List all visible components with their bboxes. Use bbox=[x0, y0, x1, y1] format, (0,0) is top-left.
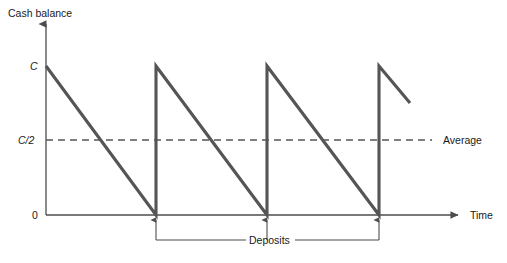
y-axis-title: Cash balance bbox=[8, 8, 72, 19]
chart-canvas bbox=[0, 0, 507, 263]
cash-balance-sawtooth-figure: Cash balance Time C C/2 0 Average Deposi… bbox=[0, 0, 507, 263]
y-tick-label-c: C bbox=[30, 61, 38, 72]
average-line-label: Average bbox=[443, 135, 482, 146]
y-tick-label-zero: 0 bbox=[32, 210, 38, 221]
x-axis-title: Time bbox=[470, 210, 493, 221]
deposits-bracket-label: Deposits bbox=[249, 235, 290, 246]
y-tick-label-c-half: C/2 bbox=[18, 135, 34, 146]
